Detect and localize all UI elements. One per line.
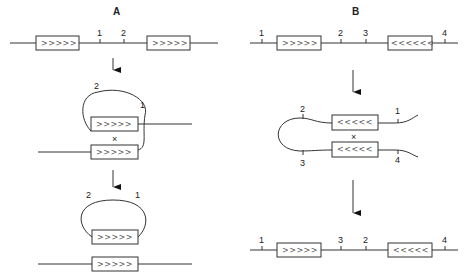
svg-text:2: 2 [86,190,91,200]
svg-text:2: 2 [300,104,305,114]
site-2-label: 2 [121,28,126,38]
crossover-mark: × [351,132,356,142]
svg-text:1: 1 [135,190,140,200]
svg-text:4: 4 [442,28,447,38]
panel-a-step2: >>>>> >>>>> × 2 1 [38,81,192,159]
svg-text:>>>>>: >>>>> [97,260,133,269]
svg-text:2: 2 [338,28,343,38]
panel-b-title: B [352,6,359,17]
svg-text:<<<<<<: <<<<<< [391,39,434,48]
svg-text:>>>>>: >>>>> [96,120,132,129]
crossover-mark: × [112,134,117,144]
site-1-label: 1 [97,28,102,38]
recombination-diagram: A >>>>> >>>>> 1 2 >>>>> >>>>> × 2 1 >>>>… [0,0,466,278]
svg-text:>>>>>: >>>>> [152,39,188,48]
svg-text:>>>>>: >>>>> [97,233,133,242]
svg-text:1: 1 [259,28,264,38]
svg-text:3: 3 [338,235,343,245]
svg-text:4: 4 [395,155,400,165]
svg-text:1: 1 [140,100,145,110]
panel-b-step1: >>>>> <<<<<< 1 2 3 4 [250,28,458,50]
panel-a-step3: >>>>> 2 1 >>>>> [38,190,192,271]
panel-b-step2: <<<<< <<<<< 2 1 × 3 4 [278,104,418,168]
svg-text:>>>>>: >>>>> [96,148,132,157]
svg-text:3: 3 [363,28,368,38]
svg-text:1: 1 [259,235,264,245]
svg-text:<<<<<: <<<<< [337,145,373,154]
svg-text:>>>>>: >>>>> [41,39,77,48]
panel-a-step1: >>>>> >>>>> 1 2 [10,28,218,50]
svg-text:1: 1 [395,106,400,116]
svg-text:2: 2 [363,235,368,245]
svg-text:2: 2 [94,81,99,91]
svg-text:>>>>>: >>>>> [282,246,318,255]
svg-text:4: 4 [442,235,447,245]
svg-text:<<<<<: <<<<< [337,118,373,127]
svg-text:<<<<<: <<<<< [393,246,429,255]
svg-text:>>>>>: >>>>> [282,39,318,48]
svg-text:3: 3 [300,158,305,168]
panel-b-step3: >>>>> <<<<< 1 3 2 4 [250,235,458,257]
panel-a-title: A [113,6,120,17]
